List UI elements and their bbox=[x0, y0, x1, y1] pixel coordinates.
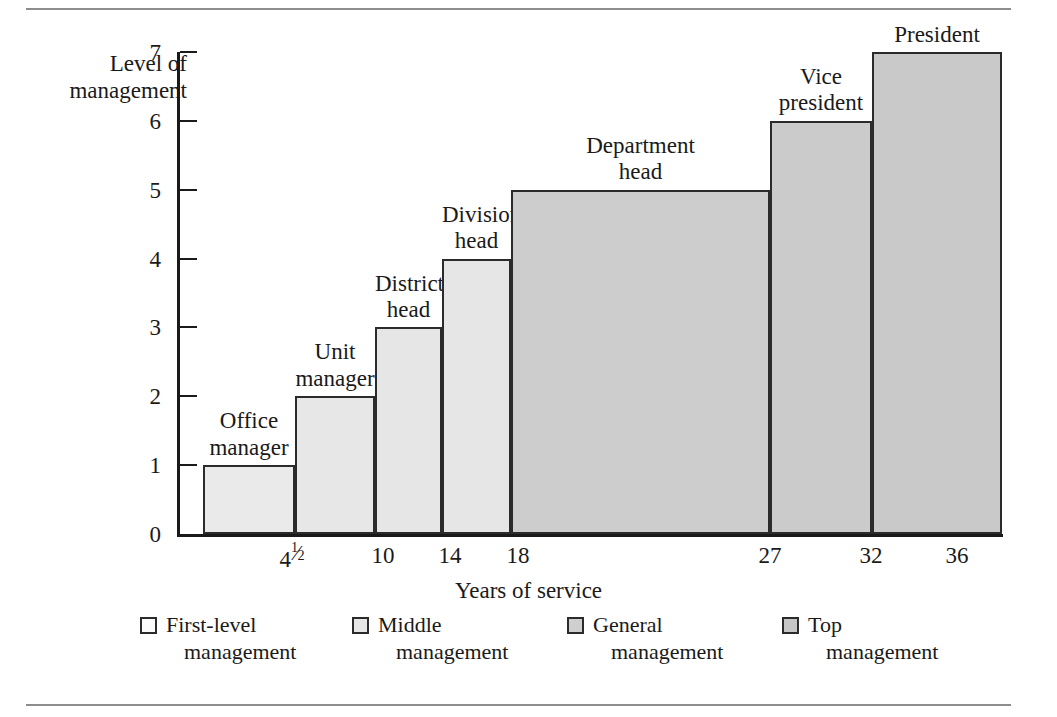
y-tick-mark-3 bbox=[180, 326, 197, 328]
legend-label-line1-2: Middle bbox=[378, 612, 442, 637]
y-axis-title: Level of management bbox=[47, 50, 187, 104]
x-tick-label-2: 10 bbox=[372, 544, 395, 567]
x-axis-line bbox=[177, 534, 1003, 537]
bar-label-line2-3: head bbox=[375, 297, 442, 323]
bar-label-line1-6: Vice bbox=[770, 64, 872, 90]
y-tick-label-7: 7 bbox=[150, 41, 162, 64]
x-tick-label-6: 32 bbox=[860, 544, 883, 567]
legend-label-line1-1: First-level bbox=[166, 612, 256, 637]
legend-swatch-1 bbox=[140, 617, 157, 634]
bar-7[interactable] bbox=[872, 52, 1002, 534]
legend-label-line2-3: management bbox=[593, 639, 723, 666]
bar-5[interactable] bbox=[511, 190, 770, 534]
legend-swatch-4 bbox=[782, 617, 799, 634]
x-tick-label-3: 14 bbox=[439, 544, 462, 567]
legend-label-line2-4: management bbox=[808, 639, 938, 666]
bar-chart-figure: Level of management 76543210 Officemanag… bbox=[0, 0, 1057, 717]
bar-1[interactable] bbox=[203, 465, 295, 534]
x-tick-label-5: 27 bbox=[759, 544, 782, 567]
legend-label-line2-2: management bbox=[378, 639, 508, 666]
bar-label-line2-2: manager bbox=[295, 366, 375, 392]
bar-label-5: Departmenthead bbox=[511, 133, 770, 186]
fraction-one-half: 1⁄2 bbox=[291, 544, 311, 567]
y-tick-mark-4 bbox=[180, 258, 197, 260]
x-tick-label-1: 41⁄2 bbox=[279, 544, 310, 571]
bar-label-line1-4: Division bbox=[442, 202, 511, 228]
bar-label-1: Officemanager bbox=[203, 408, 295, 461]
bar-label-line1-7: President bbox=[872, 22, 1002, 48]
bar-label-line1-1: Office bbox=[203, 408, 295, 434]
x-tick-label-4: 18 bbox=[507, 544, 530, 567]
bar-label-7: President bbox=[872, 22, 1002, 48]
bar-2[interactable] bbox=[295, 396, 375, 534]
y-tick-label-6: 6 bbox=[150, 109, 162, 132]
legend-item-3[interactable]: Generalmanagement bbox=[567, 612, 782, 666]
bar-label-6: Vicepresident bbox=[770, 64, 872, 117]
y-tick-mark-2 bbox=[180, 395, 197, 397]
bar-label-line1-2: Unit bbox=[295, 339, 375, 365]
x-tick-label-7: 36 bbox=[946, 544, 969, 567]
bar-label-line2-4: head bbox=[442, 228, 511, 254]
legend-item-4[interactable]: Topmanagement bbox=[782, 612, 940, 666]
chart-legend: First-levelmanagementMiddlemanagementGen… bbox=[140, 612, 940, 666]
legend-label-line1-3: General bbox=[593, 612, 663, 637]
y-tick-mark-6 bbox=[180, 120, 197, 122]
bar-label-2: Unitmanager bbox=[295, 339, 375, 392]
legend-label-2: Middlemanagement bbox=[378, 612, 508, 666]
bar-6[interactable] bbox=[770, 121, 872, 534]
legend-swatch-2 bbox=[352, 617, 369, 634]
legend-label-4: Topmanagement bbox=[808, 612, 938, 666]
y-axis-title-line1: Level of bbox=[47, 50, 187, 77]
bar-label-line1-5: Department bbox=[511, 133, 770, 159]
plot-area: Level of management 76543210 Officemanag… bbox=[177, 52, 1003, 537]
y-tick-label-1: 1 bbox=[150, 454, 162, 477]
bar-label-line2-5: head bbox=[511, 159, 770, 185]
x-axis-title: Years of service bbox=[0, 578, 1057, 604]
y-tick-label-0: 0 bbox=[150, 523, 162, 546]
y-tick-label-2: 2 bbox=[150, 385, 162, 408]
bar-3[interactable] bbox=[375, 327, 442, 534]
bar-label-line2-6: president bbox=[770, 90, 872, 116]
y-tick-mark-7 bbox=[180, 51, 197, 53]
y-tick-mark-1 bbox=[180, 464, 197, 466]
bar-label-3: Districthead bbox=[375, 271, 442, 324]
legend-label-3: Generalmanagement bbox=[593, 612, 723, 666]
legend-label-line1-4: Top bbox=[808, 612, 842, 637]
bar-4[interactable] bbox=[442, 259, 511, 534]
bar-label-4: Divisionhead bbox=[442, 202, 511, 255]
bar-label-line2-1: manager bbox=[203, 435, 295, 461]
y-tick-mark-5 bbox=[180, 189, 197, 191]
y-tick-label-3: 3 bbox=[150, 316, 162, 339]
y-tick-label-4: 4 bbox=[150, 247, 162, 270]
y-tick-label-5: 5 bbox=[150, 178, 162, 201]
bar-label-line1-3: District bbox=[375, 271, 442, 297]
legend-swatch-3 bbox=[567, 617, 584, 634]
legend-label-1: First-levelmanagement bbox=[166, 612, 296, 666]
legend-item-2[interactable]: Middlemanagement bbox=[352, 612, 567, 666]
legend-item-1[interactable]: First-levelmanagement bbox=[140, 612, 352, 666]
legend-label-line2-1: management bbox=[166, 639, 296, 666]
y-axis-title-line2: management bbox=[47, 77, 187, 104]
